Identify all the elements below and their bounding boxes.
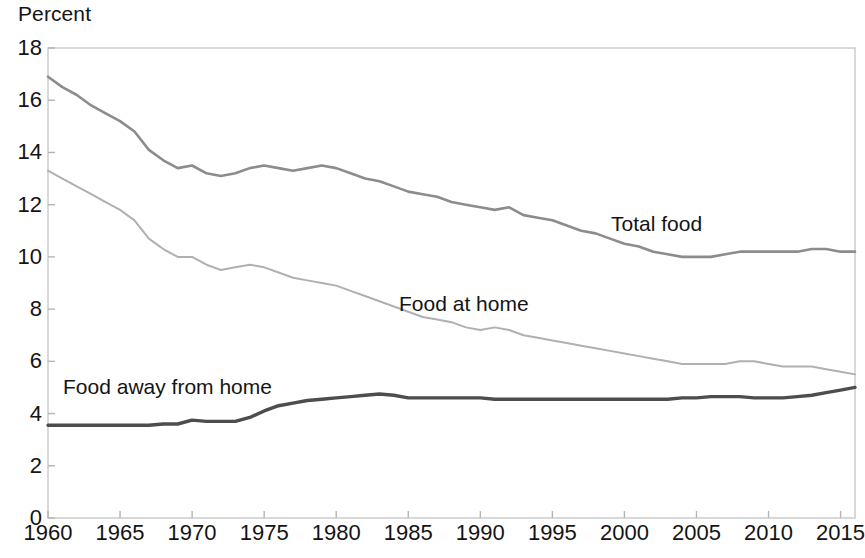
series-lines — [48, 77, 855, 426]
series-label-total-food: Total food — [611, 212, 702, 236]
axis-ticks — [48, 48, 841, 518]
plot-frame — [48, 48, 855, 518]
series-label-food-at-home: Food at home — [399, 292, 529, 316]
series-label-food-away-from-home: Food away from home — [63, 375, 272, 399]
